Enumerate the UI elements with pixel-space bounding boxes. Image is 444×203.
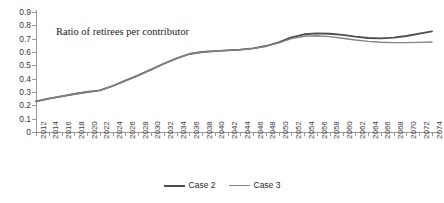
legend-item-case-3: Case 3 <box>229 181 281 190</box>
x-axis-tick <box>202 132 203 136</box>
x-axis-tick <box>304 132 305 136</box>
y-axis-tick <box>32 119 36 120</box>
chart-container: 0.90.80.70.60.50.40.30.20.10 20122014201… <box>0 0 444 203</box>
y-axis-tick <box>32 39 36 40</box>
x-axis-tick <box>432 132 433 136</box>
x-axis-tick <box>406 132 407 136</box>
x-axis-tick <box>177 132 178 136</box>
x-axis-tick <box>87 132 88 136</box>
series-line-case-3 <box>36 36 432 102</box>
legend-label-case-2: Case 2 <box>189 181 216 190</box>
x-axis-tick <box>74 132 75 136</box>
x-axis-tick <box>62 132 63 136</box>
x-axis-tick <box>49 132 50 136</box>
y-axis-tick <box>32 92 36 93</box>
y-axis-tick <box>32 79 36 80</box>
x-axis-tick <box>125 132 126 136</box>
x-axis-tick <box>100 132 101 136</box>
y-axis-tick <box>32 105 36 106</box>
x-axis-tick <box>113 132 114 136</box>
x-axis-tick <box>317 132 318 136</box>
legend-swatch-case-3 <box>229 185 250 186</box>
x-axis-tick <box>138 132 139 136</box>
x-axis-tick <box>419 132 420 136</box>
legend-label-case-3: Case 3 <box>254 181 281 190</box>
x-axis-tick <box>279 132 280 136</box>
x-axis-tick <box>253 132 254 136</box>
x-axis-tick <box>215 132 216 136</box>
x-axis-tick <box>394 132 395 136</box>
x-axis-tick <box>266 132 267 136</box>
legend-swatch-case-2 <box>164 185 185 187</box>
chart-legend: Case 2 Case 3 <box>0 181 444 190</box>
legend-item-case-2: Case 2 <box>164 181 216 190</box>
x-axis-tick <box>368 132 369 136</box>
x-axis-tick <box>291 132 292 136</box>
x-axis-tick <box>240 132 241 136</box>
x-axis-tick <box>330 132 331 136</box>
series-plot <box>0 0 444 203</box>
y-axis-tick <box>32 52 36 53</box>
x-axis-tick <box>343 132 344 136</box>
y-axis-tick <box>32 12 36 13</box>
x-axis-tick <box>189 132 190 136</box>
x-axis-tick <box>228 132 229 136</box>
x-axis-tick <box>36 132 37 136</box>
x-axis-tick <box>151 132 152 136</box>
y-axis-tick <box>32 25 36 26</box>
y-axis-tick <box>32 65 36 66</box>
x-axis-tick <box>164 132 165 136</box>
x-axis-tick <box>381 132 382 136</box>
x-axis-tick <box>355 132 356 136</box>
